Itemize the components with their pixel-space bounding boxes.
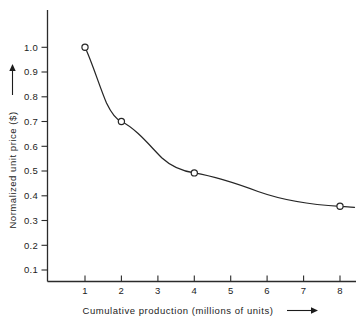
y-axis-arrow-icon: [9, 64, 15, 95]
data-curve: [85, 47, 355, 207]
x-axis-title: Cumulative production (millions of units…: [83, 305, 274, 316]
y-axis-title: Normalized unit price ($): [7, 111, 18, 228]
y-tick-label-0.9: 0.9: [24, 66, 38, 77]
data-markers: [82, 44, 343, 209]
x-axis-arrow-icon: [287, 307, 318, 313]
data-point-3: [191, 170, 197, 176]
x-tick-label-5: 5: [228, 285, 234, 296]
x-tick-label-8: 8: [337, 285, 343, 296]
x-tick-label-2: 2: [119, 285, 125, 296]
x-axis-ticks: [85, 276, 340, 282]
y-tick-label-0.3: 0.3: [24, 215, 38, 226]
data-point-1: [82, 44, 88, 50]
x-tick-label-3: 3: [155, 285, 161, 296]
x-tick-label-7: 7: [301, 285, 307, 296]
x-tick-label-1: 1: [82, 285, 88, 296]
data-point-4: [337, 203, 343, 209]
data-point-2: [118, 118, 124, 124]
chart-canvas: 0.1 0.2 0.3 0.4 0.5 0.6 0.7 0.8 0.9 1.0 …: [0, 0, 361, 322]
y-axis-tick-labels: 0.1 0.2 0.3 0.4 0.5 0.6 0.7 0.8 0.9 1.0: [24, 42, 38, 276]
y-tick-label-0.7: 0.7: [24, 116, 38, 127]
y-tick-label-0.5: 0.5: [24, 165, 38, 176]
y-tick-label-0.1: 0.1: [24, 264, 38, 275]
x-tick-label-6: 6: [264, 285, 270, 296]
y-axis-ticks: [42, 47, 48, 270]
chart-figure: 0.1 0.2 0.3 0.4 0.5 0.6 0.7 0.8 0.9 1.0 …: [0, 0, 361, 322]
y-tick-label-0.4: 0.4: [24, 190, 38, 201]
y-tick-label-0.8: 0.8: [24, 91, 38, 102]
y-tick-label-0.2: 0.2: [24, 240, 38, 251]
x-tick-label-4: 4: [192, 285, 198, 296]
y-tick-label-0.6: 0.6: [24, 141, 38, 152]
y-tick-label-1.0: 1.0: [24, 42, 38, 53]
x-axis-tick-labels: 1 2 3 4 5 6 7 8: [82, 285, 343, 296]
